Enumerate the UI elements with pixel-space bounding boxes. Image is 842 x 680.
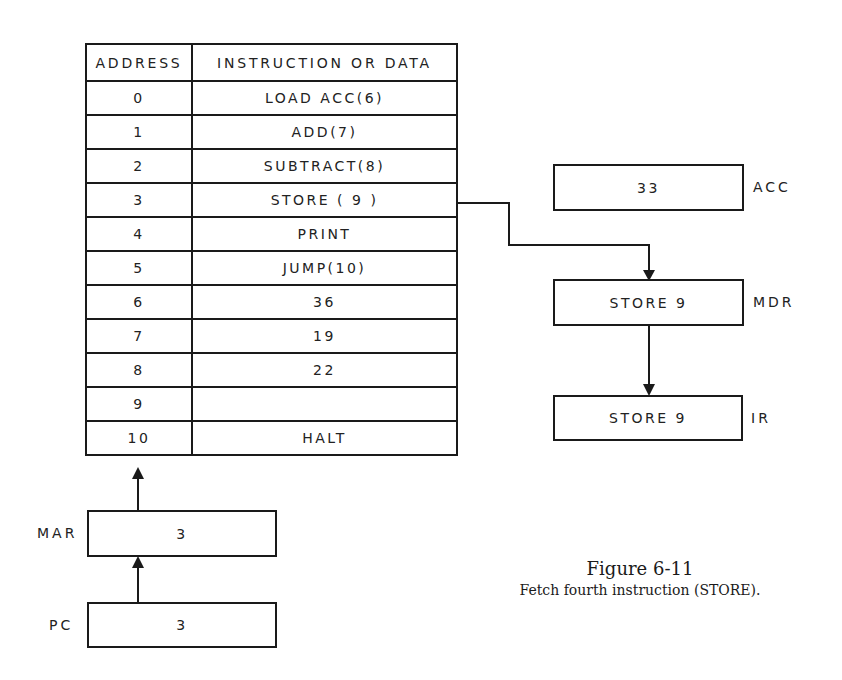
content-cell: 19 <box>192 319 457 353</box>
figure-title: Figure 6-11 <box>540 558 740 579</box>
address-cell: 6 <box>86 285 192 319</box>
content-cell: SUBTRACT(8) <box>192 149 457 183</box>
mdr-value: STORE 9 <box>610 295 688 311</box>
memory-row-10: 10 HALT <box>86 421 457 455</box>
content-cell: ADD(7) <box>192 115 457 149</box>
memory-row-4: 4 PRINT <box>86 217 457 251</box>
memory-row-9: 9 <box>86 387 457 421</box>
address-cell: 10 <box>86 421 192 455</box>
address-column-header: ADDRESS <box>86 44 192 81</box>
address-cell: 9 <box>86 387 192 421</box>
address-cell: 5 <box>86 251 192 285</box>
address-cell: 8 <box>86 353 192 387</box>
mdr-register-box: STORE 9 <box>553 279 744 326</box>
memory-row-3: 3 STORE ( 9 ) <box>86 183 457 217</box>
arrowhead-up-icon <box>132 467 144 479</box>
mar-register-box: 3 <box>87 510 277 557</box>
memory-row-0: 0 LOAD ACC(6) <box>86 81 457 115</box>
memory-row-2: 2 SUBTRACT(8) <box>86 149 457 183</box>
content-cell: JUMP(10) <box>192 251 457 285</box>
address-cell: 1 <box>86 115 192 149</box>
pc-label: PC <box>49 617 73 633</box>
content-cell: STORE ( 9 ) <box>192 183 457 217</box>
content-cell <box>192 387 457 421</box>
ir-value: STORE 9 <box>609 410 687 426</box>
content-cell: 22 <box>192 353 457 387</box>
address-cell: 2 <box>86 149 192 183</box>
mar-value: 3 <box>176 526 187 542</box>
content-cell: 36 <box>192 285 457 319</box>
pc-register-box: 3 <box>87 602 277 648</box>
acc-register-box: 33 <box>553 164 744 211</box>
pc-value: 3 <box>176 617 187 633</box>
acc-label: ACC <box>753 179 791 195</box>
content-cell: HALT <box>192 421 457 455</box>
acc-value: 33 <box>637 180 660 196</box>
figure-caption: Fetch fourth instruction (STORE). <box>462 582 818 598</box>
arrowhead-up-icon <box>132 556 144 568</box>
memory-row-5: 5 JUMP(10) <box>86 251 457 285</box>
address-cell: 7 <box>86 319 192 353</box>
address-cell: 3 <box>86 183 192 217</box>
memory-row-7: 7 19 <box>86 319 457 353</box>
memory-table: ADDRESS INSTRUCTION OR DATA 0 LOAD ACC(6… <box>85 43 458 456</box>
content-cell: PRINT <box>192 217 457 251</box>
ir-label: IR <box>751 410 771 426</box>
memory-row-8: 8 22 <box>86 353 457 387</box>
memory-row-6: 6 36 <box>86 285 457 319</box>
mar-label: MAR <box>37 525 77 541</box>
ir-register-box: STORE 9 <box>553 395 743 441</box>
content-column-header: INSTRUCTION OR DATA <box>192 44 457 81</box>
address-cell: 0 <box>86 81 192 115</box>
mdr-label: MDR <box>753 294 795 310</box>
content-cell: LOAD ACC(6) <box>192 81 457 115</box>
address-cell: 4 <box>86 217 192 251</box>
memory-table-header: ADDRESS INSTRUCTION OR DATA <box>86 44 457 81</box>
memory-row-1: 1 ADD(7) <box>86 115 457 149</box>
memory-to-mdr-connector <box>458 203 649 272</box>
